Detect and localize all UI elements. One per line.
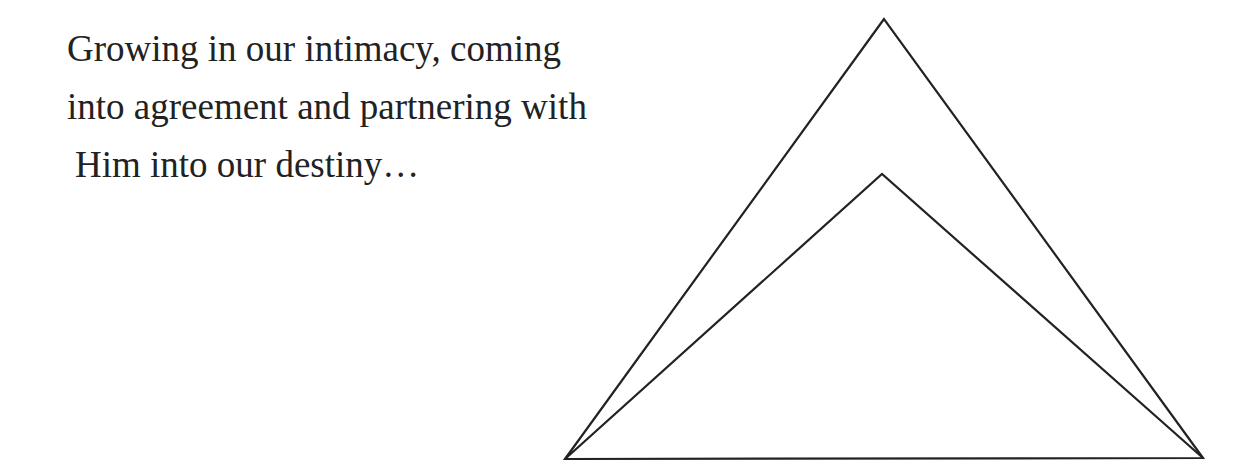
outer-triangle — [565, 19, 1203, 459]
inner-triangle — [565, 174, 1203, 459]
nested-triangles-diagram — [0, 0, 1259, 470]
